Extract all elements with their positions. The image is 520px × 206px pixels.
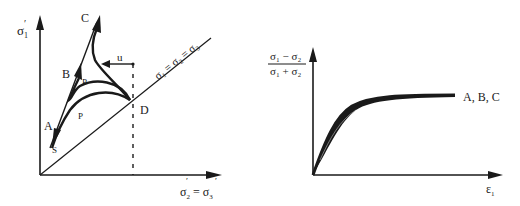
curve-label: A, B, C — [463, 90, 500, 104]
stress-path-diagram: σ1′ σ2 = σ3 ′ ′ σ₁ = σ₂ = σ₃ C B A S D P… — [17, 11, 222, 201]
chart-y-axis-arrow-icon — [309, 47, 317, 62]
chart-y-label-denominator: σ₁ + σ₂ — [270, 65, 301, 77]
path-d-to-a — [52, 93, 130, 148]
x-axis-prime-1: ′ — [186, 176, 188, 186]
stress-ratio-chart: σ₁ − σ₂ σ₁ + σ₂ A, B, C ε1 — [268, 47, 503, 198]
point-label-s: S — [52, 145, 57, 155]
isotropic-line-label: σ₁ = σ₂ = σ₃ — [152, 39, 201, 81]
arrow-a-icon — [52, 128, 61, 146]
chart-y-label-numerator: σ₁ − σ₂ — [270, 50, 301, 62]
point-label-u: u — [117, 51, 123, 63]
x-axis-prime-2: ′ — [215, 176, 217, 186]
u-arrow-icon — [101, 60, 110, 68]
point-label-d: D — [140, 103, 149, 117]
u-point — [131, 62, 134, 65]
y-axis-arrow-icon — [36, 15, 44, 30]
chart-x-label: ε1 — [486, 182, 495, 198]
x-axis-arrow-icon — [206, 171, 222, 179]
curve-band — [313, 94, 455, 175]
point-label-p-lower: P — [78, 111, 83, 121]
x-axis-label: σ2 = σ3 — [180, 185, 213, 201]
point-label-c: C — [81, 11, 89, 25]
point-label-p-upper: P — [82, 77, 87, 87]
chart-x-axis-arrow-icon — [488, 171, 503, 179]
path-d-to-b — [69, 78, 130, 100]
y-axis-label: σ1′ — [17, 18, 28, 40]
point-label-b: B — [62, 67, 70, 81]
figure-canvas: σ1′ σ2 = σ3 ′ ′ σ₁ = σ₂ = σ₃ C B A S D P… — [0, 0, 520, 206]
point-label-a: A — [44, 119, 53, 133]
arrow-b-icon — [74, 63, 82, 80]
